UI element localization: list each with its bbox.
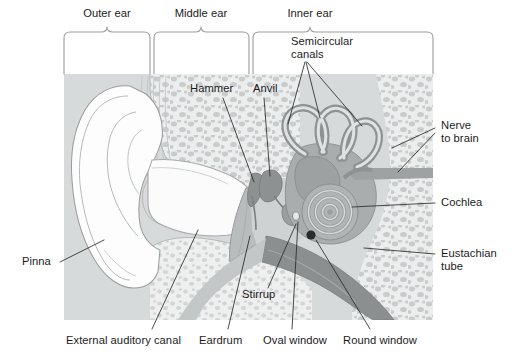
bracket-outer-ear (64, 27, 150, 74)
bracket-label-inner-ear: Inner ear (268, 7, 352, 20)
ear-anatomy-diagram: Outer ear Middle ear Inner ear Semicircu… (0, 0, 519, 357)
oval-window-mark (293, 212, 300, 220)
callout-label-eustachian-tube: Eustachian tube (441, 247, 497, 273)
callout-label-pinna: Pinna (22, 255, 51, 268)
round-window-mark (306, 230, 315, 239)
callout-label-external-auditory-canal: External auditory canal (66, 334, 181, 347)
callout-label-round-window: Round window (343, 334, 417, 347)
callout-label-semicircular-canals: Semicircular canals (291, 35, 353, 61)
bracket-label-outer-ear: Outer ear (63, 7, 151, 20)
bracket-label-middle-ear: Middle ear (155, 7, 247, 20)
callout-label-anvil: Anvil (253, 82, 278, 95)
callout-label-eardrum: Eardrum (199, 334, 242, 347)
callout-label-cochlea: Cochlea (441, 196, 482, 209)
callout-label-nerve-to-brain: Nerve to brain (441, 119, 479, 145)
bracket-middle-ear (154, 27, 249, 74)
ear-diagram-canvas (0, 0, 519, 357)
callout-label-oval-window: Oval window (263, 334, 327, 347)
callout-label-stirrup: Stirrup (242, 288, 275, 301)
callout-label-hammer: Hammer (190, 82, 233, 95)
section-bracket-group (64, 27, 433, 74)
auditory-nerve (344, 168, 433, 180)
